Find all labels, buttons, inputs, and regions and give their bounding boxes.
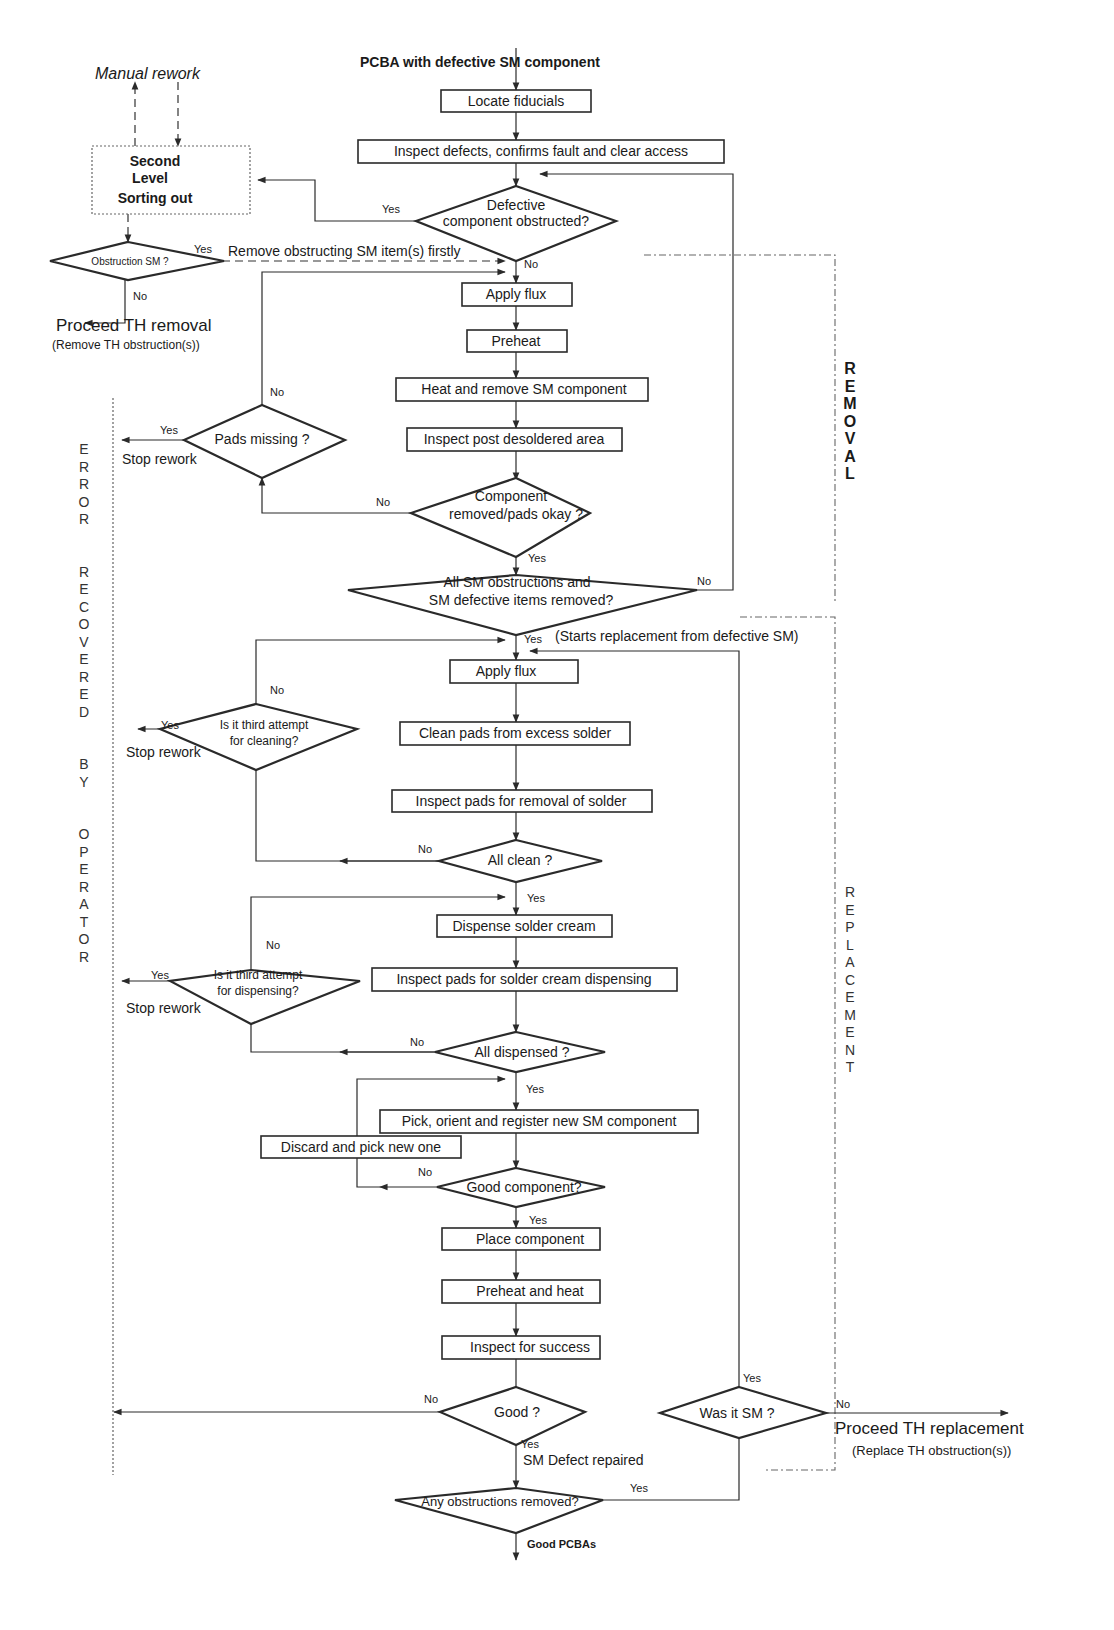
decision-all-removed-line2: SM defective items removed? bbox=[429, 592, 613, 608]
cleaning-no-label: No bbox=[270, 682, 284, 698]
step-inspect-defects: Inspect defects, confirms fault and clea… bbox=[394, 143, 688, 159]
any-obstructions-yes-label: Yes bbox=[630, 1480, 648, 1496]
good-no-label: No bbox=[424, 1391, 438, 1407]
stop-rework-2: Stop rework bbox=[126, 744, 201, 760]
step-clean-pads: Clean pads from excess solder bbox=[419, 725, 611, 741]
replace-th-obstructions-label: (Replace TH obstruction(s)) bbox=[852, 1443, 1011, 1459]
proceed-th-removal-label: Proceed TH removal bbox=[56, 318, 212, 334]
end-good-pcbas: Good PCBAs bbox=[527, 1536, 596, 1552]
remove-th-obstructions-label: (Remove TH obstruction(s)) bbox=[52, 337, 200, 353]
decision-component-removed-line1: Component bbox=[475, 488, 547, 504]
dispensing-yes-label: Yes bbox=[151, 967, 169, 983]
decision-component-removed-line2: removed/pads okay ? bbox=[449, 506, 583, 522]
second-level-line1: Second bbox=[130, 153, 181, 169]
decision-third-dispensing-line2: for dispensing? bbox=[217, 983, 298, 999]
component-removed-yes-label: Yes bbox=[528, 550, 546, 566]
dispensing-no-label: No bbox=[266, 937, 280, 953]
obstruction-no-label: No bbox=[133, 288, 147, 304]
decision-pads-missing: Pads missing ? bbox=[215, 431, 310, 447]
flowchart-canvas bbox=[0, 0, 1114, 1630]
obstruction-sm-decision: Obstruction SM ? bbox=[91, 254, 168, 270]
remove-obstructing-label: Remove obstructing SM item(s) firstly bbox=[228, 243, 461, 259]
sm-defect-repaired-label: SM Defect repaired bbox=[523, 1452, 644, 1468]
decision-good: Good ? bbox=[494, 1404, 540, 1420]
all-clean-no-label: No bbox=[418, 841, 432, 857]
pads-missing-no-label: No bbox=[270, 384, 284, 400]
step-apply-flux-removal: Apply flux bbox=[486, 286, 547, 302]
pads-missing-yes-label: Yes bbox=[160, 422, 178, 438]
all-removed-yes-label: Yes bbox=[524, 631, 542, 647]
decision-third-cleaning-line1: Is it third attempt bbox=[220, 717, 309, 733]
step-preheat-heat: Preheat and heat bbox=[476, 1283, 583, 1299]
manual-rework-label: Manual rework bbox=[95, 66, 200, 82]
start-label: PCBA with defective SM component bbox=[360, 54, 600, 70]
step-preheat: Preheat bbox=[491, 333, 540, 349]
step-inspect-pads-removal: Inspect pads for removal of solder bbox=[416, 793, 627, 809]
step-locate-fiducials: Locate fiducials bbox=[468, 93, 565, 109]
all-dispensed-yes-label: Yes bbox=[526, 1081, 544, 1097]
component-removed-no-label: No bbox=[376, 494, 390, 510]
obstructed-yes-label: Yes bbox=[382, 201, 400, 217]
step-dispense-cream: Dispense solder cream bbox=[452, 918, 595, 934]
decision-good-component: Good component? bbox=[466, 1179, 581, 1195]
all-removed-no-label: No bbox=[697, 573, 711, 589]
starts-replacement-label: (Starts replacement from defective SM) bbox=[555, 628, 799, 644]
step-inspect-success: Inspect for success bbox=[470, 1339, 590, 1355]
step-inspect-post: Inspect post desoldered area bbox=[424, 431, 605, 447]
good-component-yes-label: Yes bbox=[529, 1212, 547, 1228]
stop-rework-3: Stop rework bbox=[126, 1000, 201, 1016]
step-place-component: Place component bbox=[476, 1231, 584, 1247]
error-recovered-label: E R R O R R E C O V E R E D B Y O P E R … bbox=[74, 441, 94, 966]
removal-region-boundary bbox=[644, 255, 835, 602]
step-discard-pick: Discard and pick new one bbox=[281, 1139, 441, 1155]
decision-all-removed-line1: All SM obstructions and bbox=[443, 574, 590, 590]
replacement-region-label: R E P L A C E M E N T bbox=[840, 884, 860, 1077]
decision-all-clean: All clean ? bbox=[488, 852, 553, 868]
good-yes-label: Yes bbox=[521, 1436, 539, 1452]
decision-third-dispensing-line1: Is it third attempt bbox=[214, 967, 303, 983]
obstructed-no-label: No bbox=[524, 256, 538, 272]
was-sm-no-label: No bbox=[836, 1396, 850, 1412]
replacement-loop-connectors bbox=[114, 640, 1008, 1500]
stop-rework-1: Stop rework bbox=[122, 451, 197, 467]
decision-obstructed-line1: Defective bbox=[487, 197, 545, 213]
removal-region-label: R E M O V A L bbox=[840, 360, 860, 483]
decision-obstructed-line2: component obstructed? bbox=[443, 213, 589, 229]
step-apply-flux-replacement: Apply flux bbox=[476, 663, 537, 679]
second-level-line3: Sorting out bbox=[118, 190, 193, 206]
was-sm-yes-label: Yes bbox=[743, 1370, 761, 1386]
cleaning-yes-label: Yes bbox=[161, 717, 179, 733]
step-heat-remove: Heat and remove SM component bbox=[421, 381, 626, 397]
all-clean-yes-label: Yes bbox=[527, 890, 545, 906]
step-pick-orient: Pick, orient and register new SM compone… bbox=[402, 1113, 677, 1129]
decision-any-obstructions: Any obstructions removed? bbox=[421, 1494, 579, 1510]
second-level-line2: Level bbox=[132, 170, 168, 186]
proceed-th-replacement-label: Proceed TH replacement bbox=[835, 1421, 1024, 1437]
decision-all-dispensed: All dispensed ? bbox=[475, 1044, 570, 1060]
step-inspect-pads-cream: Inspect pads for solder cream dispensing bbox=[396, 971, 651, 987]
all-dispensed-no-label: No bbox=[410, 1034, 424, 1050]
obstruction-yes-label: Yes bbox=[194, 241, 212, 257]
good-component-no-label: No bbox=[418, 1164, 432, 1180]
replacement-region-boundary bbox=[740, 617, 835, 1470]
decision-was-it-sm: Was it SM ? bbox=[700, 1405, 775, 1421]
decision-third-cleaning-line2: for cleaning? bbox=[230, 733, 299, 749]
